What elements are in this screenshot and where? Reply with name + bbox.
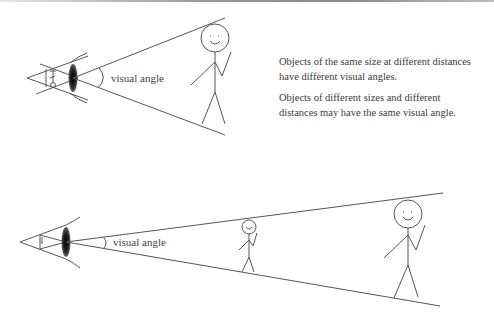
angle-arc-icon <box>98 68 103 88</box>
stick-figure-icon <box>191 24 231 124</box>
ray-lower <box>73 78 225 135</box>
bottom-angle-label: visual angle <box>113 236 166 248</box>
angle-arc-icon <box>104 238 106 248</box>
top-angle-label: visual angle <box>111 72 164 84</box>
ray-upper <box>73 18 225 78</box>
small-stick-figure-icon <box>239 220 257 272</box>
explanation-notes: Objects of the same size at different di… <box>279 54 479 126</box>
visual-angle-diagram: visual angle <box>0 0 494 336</box>
note-same-size: Objects of the same size at different di… <box>279 54 479 84</box>
note-different-size: Objects of different sizes and different… <box>279 90 479 120</box>
ray-lower <box>66 242 440 306</box>
eye-icon <box>27 53 88 103</box>
bottom-diagram <box>20 193 443 306</box>
ray-upper <box>66 193 443 242</box>
large-stick-figure-icon <box>384 200 425 298</box>
